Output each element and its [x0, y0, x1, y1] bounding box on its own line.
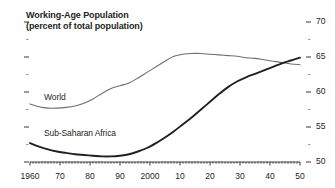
x-tick-label-20: 20: [205, 171, 214, 181]
x-tick-label-30: 30: [235, 171, 244, 181]
series-label-world: World: [44, 92, 66, 102]
series-label-sub-saharan-africa: Sub-Saharan Africa: [44, 128, 116, 138]
x-tick-label-40: 40: [265, 171, 274, 181]
y-tick-label-60: 60: [316, 86, 325, 96]
y-tick-label-65: 65: [316, 51, 325, 61]
y-tick-label-70: 70: [316, 16, 325, 26]
axis-group: [24, 22, 311, 166]
x-tick-label-80: 80: [85, 171, 94, 181]
y-tick-label-55: 55: [316, 121, 325, 131]
x-tick-label-2000: 2000: [141, 171, 160, 181]
series-group: [30, 53, 300, 156]
x-tick-label-1960: 1960: [21, 171, 40, 181]
y-tick-label-50: 50: [316, 156, 325, 166]
x-tick-label-70: 70: [55, 171, 64, 181]
x-tick-label-90: 90: [115, 171, 124, 181]
x-tick-label-10: 10: [175, 171, 184, 181]
x-tick-label-50: 50: [295, 171, 304, 181]
chart-figure: Working-Age Population (percent of total…: [0, 0, 335, 188]
series-line-world: [30, 53, 300, 108]
